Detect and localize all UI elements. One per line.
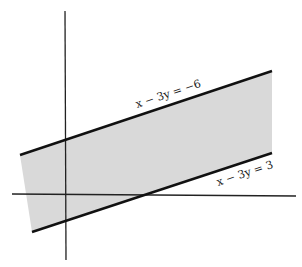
- inequality-strip-diagram: x − 3y = −6 x − 3y = 3: [0, 0, 302, 267]
